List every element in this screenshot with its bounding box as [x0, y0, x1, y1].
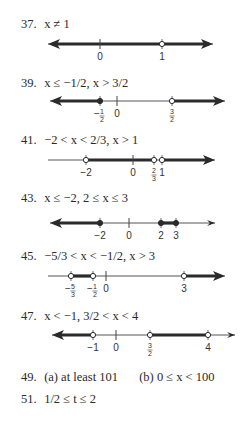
closed-dot-icon — [158, 220, 163, 225]
svg-text:3: 3 — [148, 342, 152, 349]
svg-text:0: 0 — [130, 167, 136, 178]
svg-text:0: 0 — [103, 283, 109, 294]
svg-text:1: 1 — [159, 51, 165, 62]
open-dot-icon — [147, 332, 152, 337]
svg-text:3: 3 — [71, 291, 75, 298]
svg-text:0: 0 — [113, 342, 119, 353]
open-dot-icon — [90, 332, 95, 337]
number-line-39: 0−1232 — [50, 96, 225, 123]
open-dot-icon — [205, 332, 210, 337]
svg-text:3: 3 — [170, 108, 174, 115]
open-dot-icon — [68, 273, 73, 278]
svg-text:2: 2 — [93, 291, 97, 298]
number-line-37: 01 — [48, 39, 213, 62]
closed-dot-icon — [97, 98, 102, 103]
svg-text:−1: −1 — [87, 342, 99, 353]
svg-text:0: 0 — [126, 230, 132, 241]
open-dot-icon — [159, 157, 164, 162]
open-dot-icon — [90, 273, 95, 278]
closed-dot-icon — [173, 220, 178, 225]
svg-text:3: 3 — [173, 230, 179, 241]
svg-text:−2: −2 — [94, 230, 106, 241]
svg-text:1: 1 — [159, 167, 165, 178]
open-dot-icon — [169, 98, 174, 103]
svg-text:2: 2 — [158, 230, 164, 241]
number-lines: 010−12320−22310−2230−53−1230−1324 — [0, 0, 244, 422]
svg-text:5: 5 — [71, 283, 75, 290]
svg-text:4: 4 — [205, 342, 211, 353]
closed-dot-icon — [97, 220, 102, 225]
number-line-diagrams: 010−12320−22310−2230−53−1230−1324 — [0, 0, 244, 422]
svg-text:2: 2 — [170, 116, 174, 123]
svg-text:1: 1 — [93, 283, 97, 290]
number-line-43: 0−223 — [50, 218, 215, 241]
number-line-45: 0−53−123 — [48, 271, 225, 298]
open-dot-icon — [181, 273, 186, 278]
svg-text:0: 0 — [114, 108, 120, 119]
number-line-41: 0−2231 — [48, 155, 215, 182]
svg-text:1: 1 — [100, 108, 104, 115]
svg-text:2: 2 — [100, 116, 104, 123]
svg-text:3: 3 — [152, 175, 156, 182]
svg-text:2: 2 — [152, 167, 156, 174]
svg-text:2: 2 — [148, 350, 152, 357]
svg-text:−2: −2 — [80, 167, 92, 178]
open-dot-icon — [151, 157, 156, 162]
open-dot-icon — [83, 157, 88, 162]
svg-text:3: 3 — [181, 283, 187, 294]
svg-text:0: 0 — [97, 51, 103, 62]
open-dot-icon — [159, 41, 164, 46]
number-line-47: 0−1324 — [52, 330, 235, 357]
